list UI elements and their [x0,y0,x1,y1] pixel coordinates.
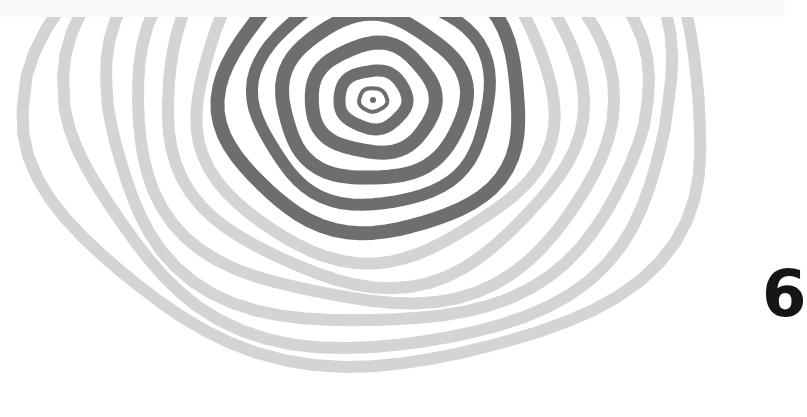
ring-center-dot [370,97,376,103]
edge-glyph: 6 [762,262,807,326]
